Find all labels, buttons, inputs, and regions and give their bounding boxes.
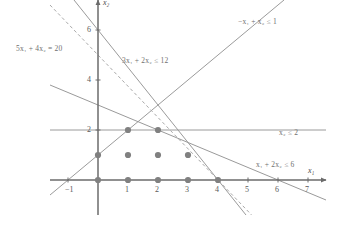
feasible-point [125, 127, 131, 133]
feasible-point [95, 152, 101, 158]
y-tick-label: 4 [87, 75, 91, 84]
x-tick-label: 1 [125, 185, 129, 194]
feasible-point [155, 152, 161, 158]
constraint-line-obj [50, 5, 252, 215]
feasible-point [185, 177, 191, 183]
objective-label: 5x₁ + 4x₂ = 20 [16, 44, 63, 53]
feasible-point [215, 177, 221, 183]
constraint-label-c2: x₂ ≤ 2 [279, 128, 298, 137]
constraint-label-c4: −x₁ + x₂ ≤ 1 [238, 17, 277, 26]
feasible-point [125, 152, 131, 158]
constraint-line-c4 [50, 0, 284, 195]
y-tick-label: 6 [87, 25, 91, 34]
constraint-label-c1: 3x₁ + 2x₂ ≤ 12 [122, 56, 168, 65]
constraint-label-c3: x₁ + 2x₂ ≤ 6 [256, 160, 294, 169]
feasible-point [155, 127, 161, 133]
feasible-point [95, 177, 101, 183]
y-tick-label: 2 [87, 125, 91, 134]
x-tick-label: 3 [185, 185, 189, 194]
feasible-point [185, 152, 191, 158]
x-axis-label: x₁ [308, 166, 314, 175]
x-tick-label: 6 [275, 185, 279, 194]
y-axis-label: x₂ [103, 0, 109, 7]
x-tick-label: 4 [215, 185, 219, 194]
feasible-points-group [95, 127, 221, 183]
feasible-point [155, 177, 161, 183]
feasible-point [125, 177, 131, 183]
objective-line-group [50, 5, 252, 215]
x-tick-label: 5 [245, 185, 249, 194]
x-tick-label: −1 [65, 185, 74, 194]
x-tick-label: 7 [305, 185, 309, 194]
linear-programming-plot: x₁ x₂ −11234567246 3x₁ + 2x₂ ≤ 12x₂ ≤ 2x… [0, 0, 354, 239]
plot-canvas [0, 0, 354, 239]
x-tick-label: 2 [155, 185, 159, 194]
